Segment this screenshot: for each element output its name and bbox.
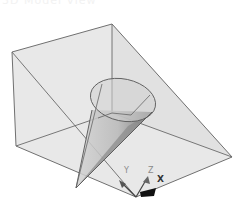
- axis-y-label: Y: [124, 166, 129, 175]
- 3d-viewport[interactable]: 3D Model View: [0, 0, 251, 199]
- view-title: 3D Model View: [2, 0, 97, 7]
- axis-x-label: X: [157, 174, 164, 184]
- axis-z-label: Z: [148, 166, 153, 175]
